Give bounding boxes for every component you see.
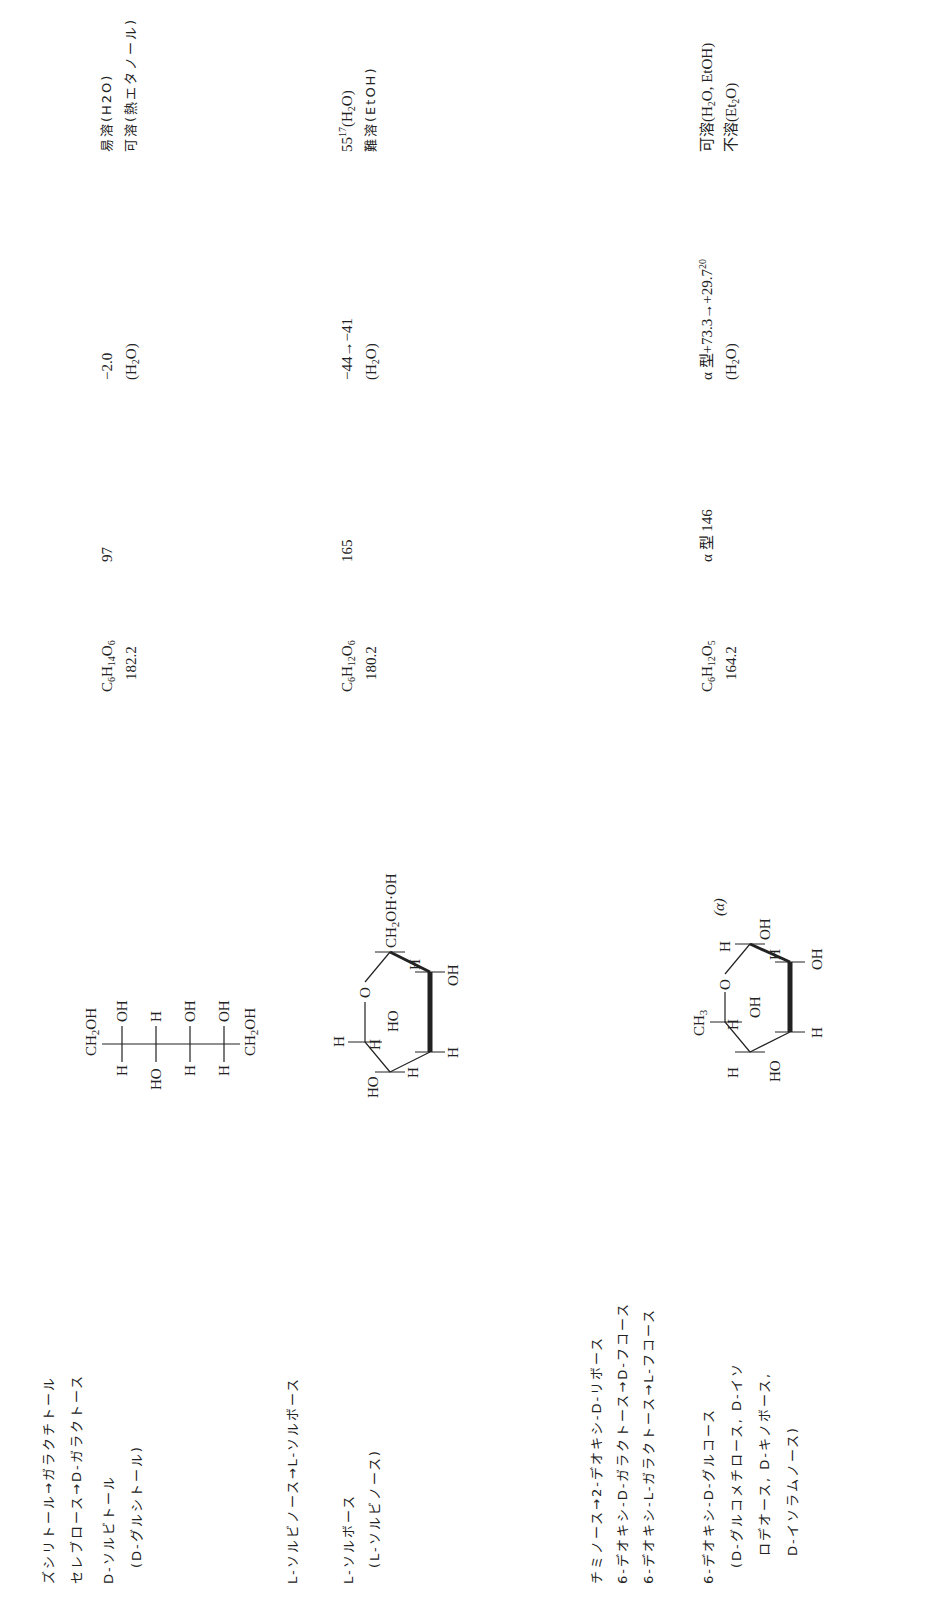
solubility-water: 5517(H2O) xyxy=(338,90,356,152)
svg-text:O: O xyxy=(717,979,733,990)
svg-text:H: H xyxy=(717,941,733,952)
svg-text:H: H xyxy=(445,1047,461,1058)
specific-rotation: −44→−41 xyxy=(338,318,356,380)
svg-text:H: H xyxy=(114,1065,130,1076)
compound-synonym: (D-グルコメチロース, D-イソ xyxy=(728,1362,746,1568)
rotated-document-page: ズシリトール→ガラクチトール セレブロース→D-ガラクトース D-ソルビトール … xyxy=(0,0,925,1612)
name-cross-ref: セレブロース→D-ガラクトース xyxy=(68,1374,86,1584)
svg-text:H: H xyxy=(767,949,783,960)
svg-text:O: O xyxy=(357,987,373,998)
molecular-formula: C6H12O5 xyxy=(698,640,716,692)
haworth-structure-quinovose: CH3 H HO H O OH H OH H H OH (α) xyxy=(680,832,834,1092)
solubility-ethanol: 可溶(熱エタノール) xyxy=(122,18,140,152)
compound-synonym: (D-グルシトール) xyxy=(128,1445,146,1568)
svg-text:H: H xyxy=(148,1011,164,1022)
solubility-ethanol: 難溶(EtOH) xyxy=(362,67,380,152)
svg-text:H: H xyxy=(331,1036,347,1047)
svg-text:CH2OH: CH2OH xyxy=(83,1008,101,1056)
name-cross-ref: L-ソルビノース→L-ソルボース xyxy=(284,1377,302,1584)
specific-rotation: α 型+73.3→+29.720 xyxy=(698,259,716,380)
melting-point: α 型 146 xyxy=(698,509,716,562)
name-cross-ref: ズシリトール→ガラクチトール xyxy=(40,1376,58,1584)
svg-text:OH: OH xyxy=(445,964,461,986)
svg-text:HO: HO xyxy=(385,1010,401,1032)
svg-text:HO: HO xyxy=(148,1068,164,1090)
name-cross-ref: チミノース→2-デオキシ-D-リボース xyxy=(588,1336,606,1584)
compound-synonym: D-イソラムノース) xyxy=(784,1426,802,1556)
name-cross-ref: 6-デオキシ-D-ガラクトース→D-フコース xyxy=(614,1302,632,1584)
compound-synonym: (L-ソルビノース) xyxy=(366,1449,384,1568)
melting-point: 97 xyxy=(98,547,116,562)
svg-text:H: H xyxy=(407,959,423,970)
molecular-formula: C6H14O6 xyxy=(98,640,116,692)
svg-text:CH2OH·OH: CH2OH·OH xyxy=(383,873,401,948)
svg-text:OH: OH xyxy=(809,948,825,970)
name-cross-ref: 6-デオキシ-L-ガラクトース→L-フコース xyxy=(640,1308,658,1584)
compound-name: D-ソルビトール xyxy=(100,1475,118,1584)
compound-name: 6-デオキシ-D-グルコース xyxy=(700,1408,718,1584)
compound-synonym: ロデオース, D-キノボース, xyxy=(756,1372,774,1556)
rotation-solvent: (H2O) xyxy=(122,343,140,380)
svg-text:H: H xyxy=(216,1065,232,1076)
svg-text:OH: OH xyxy=(747,996,763,1018)
molecular-weight: 180.2 xyxy=(362,646,380,680)
svg-text:OH: OH xyxy=(757,918,773,940)
svg-text:(α): (α) xyxy=(711,898,728,916)
svg-text:HO: HO xyxy=(365,1076,381,1098)
svg-text:HO: HO xyxy=(767,1060,783,1082)
solubility-water: 易溶(H2O) xyxy=(98,74,116,152)
molecular-weight: 164.2 xyxy=(722,646,740,680)
haworth-structure-sorbose: H HO H H O HO H OH H CH2OH·OH xyxy=(330,812,464,1112)
svg-text:H: H xyxy=(725,1067,741,1078)
rotation-solvent: (H2O) xyxy=(722,343,740,380)
svg-text:H: H xyxy=(405,1067,421,1078)
svg-text:H: H xyxy=(367,1039,383,1050)
svg-text:OH: OH xyxy=(114,1000,130,1022)
specific-rotation: −2.0 xyxy=(98,353,116,380)
svg-text:OH: OH xyxy=(216,1000,232,1022)
fischer-structure-sorbitol: CH2OH HOH HOH HOH HOH CH2OH xyxy=(80,932,254,1092)
molecular-weight: 182.2 xyxy=(122,646,140,680)
svg-text:CH3: CH3 xyxy=(691,1009,709,1036)
svg-text:H: H xyxy=(725,1019,741,1030)
molecular-formula: C6H12O6 xyxy=(338,640,356,692)
svg-text:H: H xyxy=(809,1027,825,1038)
melting-point: 165 xyxy=(338,540,356,563)
solubility-water-ethanol: 可溶(H2O, EtOH) xyxy=(698,43,716,152)
solubility-ether: 不溶(Et2O) xyxy=(722,83,740,152)
svg-text:OH: OH xyxy=(182,1000,198,1022)
svg-text:H: H xyxy=(182,1065,198,1076)
compound-name: L-ソルボース xyxy=(340,1494,358,1584)
rotation-solvent: (H2O) xyxy=(362,343,380,380)
svg-text:CH2OH: CH2OH xyxy=(242,1008,260,1056)
